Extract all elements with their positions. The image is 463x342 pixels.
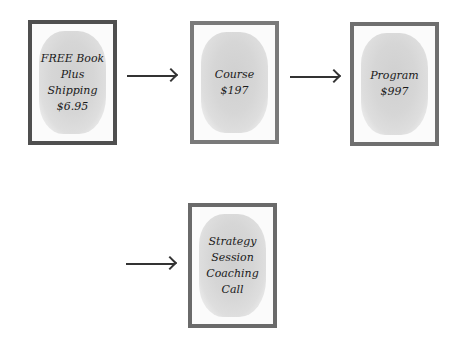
arrow-course-to-program	[290, 76, 338, 78]
card-label: Course $197	[215, 67, 255, 99]
card-strategy-session: Strategy Session Coaching Call	[188, 203, 277, 328]
card-label: FREE Book Plus Shipping $6.95	[41, 51, 104, 115]
card-label: Program $997	[370, 68, 419, 100]
arrow-book-to-course	[127, 75, 175, 77]
card-free-book: FREE Book Plus Shipping $6.95	[28, 20, 117, 145]
card-label: Strategy Session Coaching Call	[206, 234, 259, 298]
card-course: Course $197	[190, 21, 279, 144]
card-program: Program $997	[350, 22, 439, 146]
arrow-to-strategy-session	[126, 263, 174, 265]
